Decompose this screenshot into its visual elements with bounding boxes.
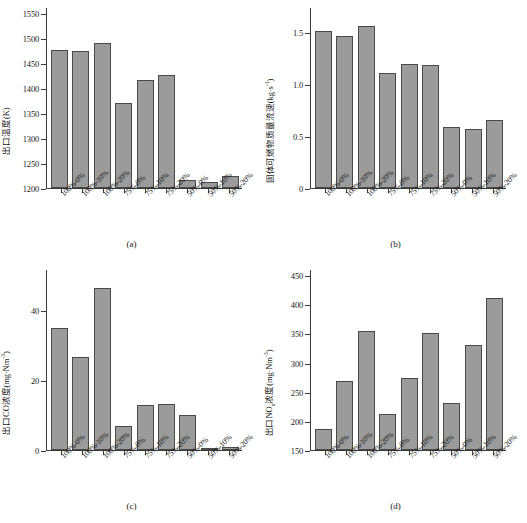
y-tick — [41, 139, 46, 140]
y-tick-label: 1.0 — [293, 81, 303, 90]
x-tick-labels: 100%-0%100%-10%100%-20%75%-0%75%-10%75%-… — [46, 192, 242, 238]
y-tick-label: 1250 — [23, 160, 39, 169]
y-tick — [41, 39, 46, 40]
x-tick-labels: 100%-0%100%-10%100%-20%75%-0%75%-10%75%-… — [310, 454, 506, 500]
bar — [72, 51, 89, 188]
y-tick-label: 1500 — [23, 35, 39, 44]
y-tick-label: 1.5 — [293, 29, 303, 38]
y-tick — [41, 381, 46, 382]
bar-series — [47, 276, 242, 450]
y-tick-label: 1550 — [23, 10, 39, 19]
bar — [51, 328, 68, 451]
y-tick — [41, 311, 46, 312]
bar — [51, 50, 68, 189]
y-tick — [41, 114, 46, 115]
y-tick — [305, 189, 310, 190]
bar — [358, 26, 375, 189]
panel-caption: (c) — [0, 501, 263, 511]
y-tick-label: 1350 — [23, 110, 39, 119]
chart-panel-a: 出口温度(K)120012501300135014001450150015501… — [0, 0, 263, 261]
y-tick — [41, 451, 46, 452]
y-tick-label: 0 — [35, 447, 39, 456]
bar — [158, 75, 175, 189]
bar — [422, 333, 439, 450]
y-tick-label: 300 — [291, 359, 303, 368]
chart-panel-c: 出口CO浓度(mg·Nm-3)02040100%-0%100%-10%100%-… — [0, 262, 263, 523]
y-tick — [41, 64, 46, 65]
bar-series — [311, 14, 506, 188]
y-tick-label: 400 — [291, 301, 303, 310]
figure-root: 出口温度(K)120012501300135014001450150015501… — [0, 0, 527, 523]
chart-panel-d: 出口NOx浓度(mg·Nm-3)150200250300350400450100… — [264, 262, 527, 523]
y-tick — [305, 422, 310, 423]
bar — [401, 64, 418, 188]
bar — [94, 288, 111, 450]
y-tick — [41, 189, 46, 190]
plot-area: 00.51.01.5 — [310, 14, 506, 189]
y-tick — [305, 33, 310, 34]
y-tick — [41, 14, 46, 15]
panel-caption: (d) — [264, 501, 527, 511]
x-tick-labels: 100%-0%100%-10%100%-20%75%-0%75%-10%75%-… — [310, 192, 506, 238]
y-axis-label: 固体可燃物质量流速(kg·s-1) — [263, 78, 275, 183]
y-tick — [305, 451, 310, 452]
bar — [422, 65, 439, 188]
y-tick — [305, 364, 310, 365]
y-tick-label: 150 — [291, 447, 303, 456]
y-tick-label: 250 — [291, 388, 303, 397]
plot-area: 150200250300350400450 — [310, 276, 506, 451]
y-tick-label: 0.5 — [293, 133, 303, 142]
y-tick-label: 0 — [299, 185, 303, 194]
y-tick — [305, 334, 310, 335]
y-tick-label: 20 — [31, 377, 39, 386]
bar — [137, 80, 154, 189]
panel-caption: (b) — [264, 239, 527, 249]
y-tick-label: 1450 — [23, 60, 39, 69]
y-tick-label: 1300 — [23, 135, 39, 144]
bar — [336, 36, 353, 188]
bar-series — [311, 276, 506, 450]
plot-area: 02040 — [46, 276, 242, 451]
y-tick — [305, 305, 310, 306]
y-axis-label: 出口CO浓度(mg·Nm-3) — [0, 351, 11, 434]
y-tick — [305, 137, 310, 138]
y-axis-label: 出口温度(K) — [0, 107, 11, 154]
bar — [486, 298, 503, 450]
y-tick — [305, 276, 310, 277]
bar-series — [47, 14, 242, 188]
chart-panel-b: 固体可燃物质量流速(kg·s-1)00.51.01.5100%-0%100%-1… — [264, 0, 527, 261]
y-tick — [41, 164, 46, 165]
x-tick-labels: 100%-0%100%-10%100%-20%75%-0%75%-10%75%-… — [46, 454, 242, 500]
y-tick-label: 450 — [291, 272, 303, 281]
bar — [94, 43, 111, 188]
y-tick-label: 1200 — [23, 185, 39, 194]
bar — [315, 31, 332, 188]
y-tick-label: 40 — [31, 307, 39, 316]
y-tick — [41, 89, 46, 90]
y-tick — [305, 85, 310, 86]
plot-area: 12001250130013501400145015001550 — [46, 14, 242, 189]
y-tick-label: 200 — [291, 418, 303, 427]
y-tick — [305, 393, 310, 394]
y-axis-label: 出口NOx浓度(mg·Nm-3) — [262, 349, 276, 436]
y-tick-label: 350 — [291, 330, 303, 339]
panel-caption: (a) — [0, 239, 263, 249]
y-tick-label: 1400 — [23, 85, 39, 94]
